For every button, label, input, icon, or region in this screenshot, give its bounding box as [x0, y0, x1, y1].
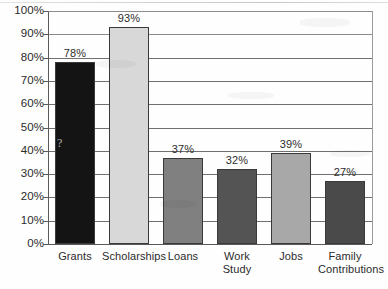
x-axis-label-scholarships: Scholarships: [102, 250, 156, 263]
y-axis-tick-label-70: 70%: [4, 74, 44, 86]
x-axis-label-line: Scholarships: [102, 250, 156, 263]
data-label-grants: 78%: [55, 47, 95, 59]
bar-family-contributions: [325, 181, 365, 244]
y-axis-tick-label-40: 40%: [4, 144, 44, 156]
x-axis-label-line: Grants: [48, 250, 102, 263]
x-axis-label-grants: Grants: [48, 250, 102, 263]
x-axis-label-work-study: Work Study: [210, 250, 264, 275]
bars-group: [48, 11, 372, 244]
scan-smudge-artifact: [228, 92, 274, 99]
scan-smudge-artifact: [96, 60, 136, 68]
x-axis-label-line: Loans: [156, 250, 210, 263]
scan-smudge-artifact: [160, 200, 196, 208]
data-label-scholarships: 93%: [109, 12, 149, 24]
x-axis-label-loans: Loans: [156, 250, 210, 263]
bar-chart: 0%10%20%30%40%50%60%70%80%90%100% 78%93%…: [0, 0, 388, 289]
scan-mark-artifact: ?: [57, 136, 68, 149]
y-axis-tick-label-10: 10%: [4, 214, 44, 226]
x-axis-label-line: Family: [318, 250, 372, 263]
x-axis-label-line: Contributions: [318, 263, 372, 276]
scan-edge-artifact: [0, 2, 388, 3]
x-axis-label-line: Jobs: [264, 250, 318, 263]
y-axis-tick-label-20: 20%: [4, 190, 44, 202]
y-axis-tick-label-90: 90%: [4, 27, 44, 39]
x-axis-label-family-contributions: FamilyContributions: [318, 250, 372, 275]
x-axis-label-jobs: Jobs: [264, 250, 318, 263]
y-axis-tick-label-30: 30%: [4, 167, 44, 179]
y-axis-tick-label-80: 80%: [4, 51, 44, 63]
bar-work-study: [217, 169, 257, 244]
data-label-loans: 37%: [163, 143, 203, 155]
y-axis-tick-label-50: 50%: [4, 121, 44, 133]
scan-smudge-artifact: [300, 18, 350, 27]
x-axis-label-line: Work Study: [210, 250, 264, 275]
data-label-jobs: 39%: [271, 138, 311, 150]
y-axis-tick-label-0: 0%: [4, 237, 44, 249]
data-label-work-study: 32%: [217, 154, 257, 166]
bar-grants: [55, 62, 95, 244]
scan-smudge-artifact: [330, 150, 370, 157]
bar-jobs: [271, 153, 311, 244]
y-axis-tick-label-100: 100%: [4, 4, 44, 16]
data-label-family-contributions: 27%: [325, 166, 365, 178]
y-axis-tick-label-60: 60%: [4, 97, 44, 109]
